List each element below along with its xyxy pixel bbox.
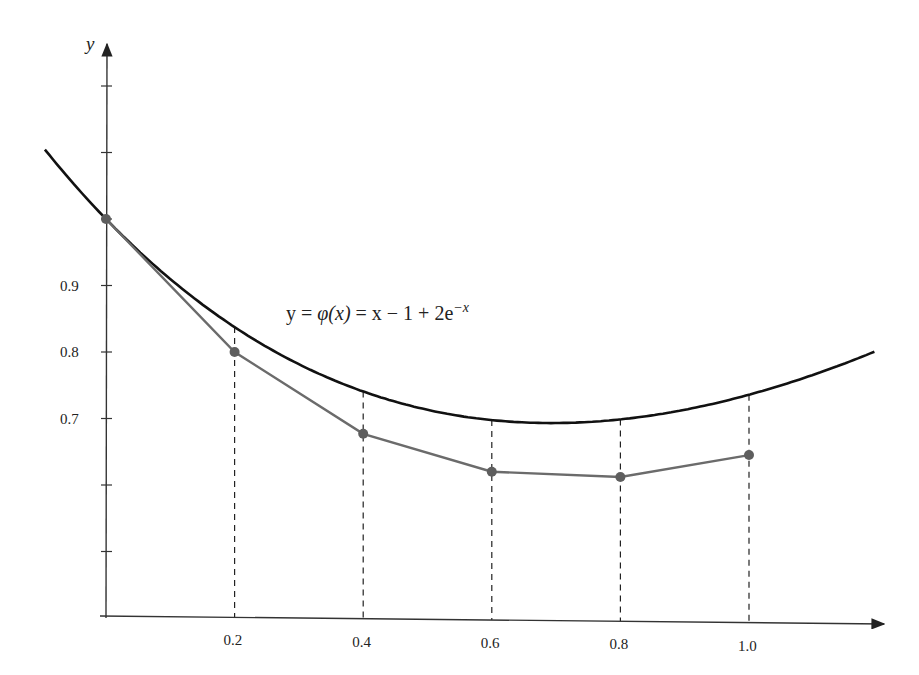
y-axis-ticks: 0.90.80.7 [60,86,112,552]
euler-point-marker [101,214,111,224]
y-axis [106,44,107,618]
y-tick-label: 0.8 [60,344,79,360]
x-tick-label: 0.6 [481,635,500,651]
y-tick-label: 0.7 [60,411,79,427]
euler-point-marker [744,450,754,460]
y-axis-label: y [84,33,95,54]
x-tick-label: 0.8 [609,636,628,652]
y-tick-label: 0.9 [60,278,79,294]
x-tick-label: 0.4 [352,634,371,650]
x-tick-label: 0.2 [224,632,243,648]
euler-point-marker [615,472,625,482]
x-axis-ticks: 0.20.40.60.81.0 [224,632,757,653]
x-tick-label: 1.0 [738,638,757,654]
phi-curve [45,150,875,424]
x-axis [100,616,884,624]
euler-point-marker [230,347,240,357]
axes: 0.90.80.7 0.20.40.60.81.0 y [60,33,884,654]
euler-point-marker [358,429,368,439]
euler-point-marker [487,467,497,477]
equation-label: y = φ(x) = x − 1 + 2e−x [286,300,470,325]
euler-approximation [101,214,754,482]
euler-polyline [106,219,749,477]
chart: 0.90.80.7 0.20.40.60.81.0 y y = φ(x) = x… [0,0,919,675]
